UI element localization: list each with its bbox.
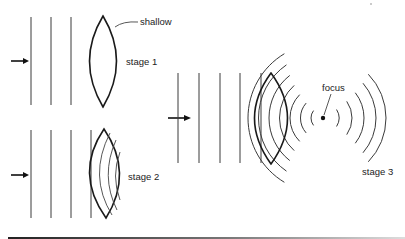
arrow-icon xyxy=(11,58,29,64)
label-focus: focus xyxy=(322,82,345,93)
speck xyxy=(370,3,372,5)
converging-arc xyxy=(259,65,287,171)
lens-wavefront-diagram: shallow stage 1 stage 2 xyxy=(0,0,405,239)
wavefront-in-lens xyxy=(99,133,112,215)
arrow-icon xyxy=(11,172,29,178)
leader-line xyxy=(324,94,331,115)
focal-point xyxy=(321,116,325,120)
leader-line xyxy=(115,22,138,27)
label-stage-3: stage 3 xyxy=(362,166,393,177)
lens xyxy=(255,73,288,164)
arrow-icon xyxy=(168,115,191,121)
lens xyxy=(90,16,117,107)
diverging-arc xyxy=(337,110,339,127)
converging-arc xyxy=(290,95,300,142)
stage-3: focus stage 3 xyxy=(168,54,393,183)
diverging-arc xyxy=(368,74,386,162)
converging-arc xyxy=(248,54,284,183)
label-shallow: shallow xyxy=(140,16,172,27)
diverging-arc xyxy=(363,83,376,153)
diverging-arc xyxy=(355,93,364,143)
converging-arcs xyxy=(248,54,314,183)
label-stage-1: stage 1 xyxy=(126,56,157,67)
label-stage-2: stage 2 xyxy=(128,171,159,182)
converging-arc xyxy=(300,103,306,133)
stage-2: stage 2 xyxy=(11,129,159,218)
stage-1: shallow stage 1 xyxy=(11,16,172,107)
bottom-rule xyxy=(8,237,405,239)
converging-arc xyxy=(311,111,314,126)
diverging-arc xyxy=(347,101,352,134)
